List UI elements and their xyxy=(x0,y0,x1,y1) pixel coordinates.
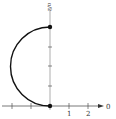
endpoint-pole xyxy=(48,104,52,108)
tick-label-2: 2 xyxy=(86,110,90,118)
tick-label-1: 1 xyxy=(67,110,71,118)
curve-series xyxy=(10,27,50,106)
polar-graph: 1 2 0 π/2 xyxy=(0,0,116,119)
polar-axis-label: 0 xyxy=(106,103,110,111)
polar-axis-arrow-icon xyxy=(98,104,104,108)
vertical-axis-label: π/2 xyxy=(47,3,53,11)
endpoint-top xyxy=(48,25,52,29)
